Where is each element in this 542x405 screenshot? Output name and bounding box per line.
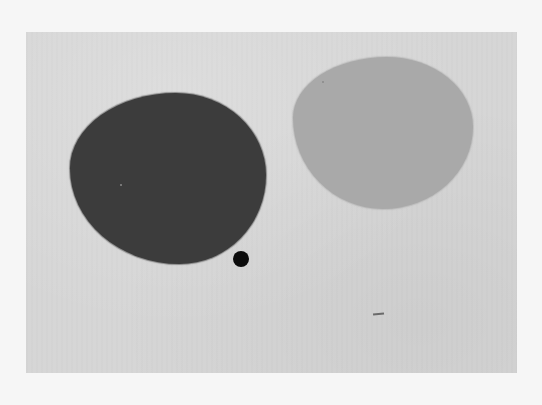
paint-speck [120, 184, 122, 186]
light-blob-shape [293, 57, 473, 209]
paint-speck [322, 81, 324, 83]
dash-mark [373, 312, 384, 315]
small-black-dot [233, 251, 249, 267]
painting-canvas [26, 32, 517, 373]
dark-blob-shape [70, 93, 266, 264]
